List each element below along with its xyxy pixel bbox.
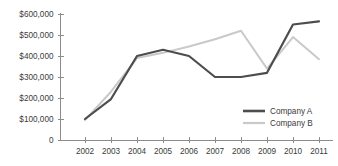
x-tick-label: 2009: [258, 147, 277, 156]
line-chart: 0$100,000$200,000$300,000$400,000$500,00…: [0, 0, 338, 166]
x-tick-label: 2010: [284, 147, 303, 156]
x-tick-label: 2006: [180, 147, 199, 156]
chart-canvas: 0$100,000$200,000$300,000$400,000$500,00…: [0, 0, 338, 166]
legend-label-company-a: Company A: [270, 107, 313, 116]
x-tick-label: 2005: [154, 147, 173, 156]
y-tick-label: $400,000: [19, 52, 54, 61]
series-lines: [85, 21, 319, 120]
chart-legend: Company ACompany B: [243, 107, 313, 128]
y-tick-label: $200,000: [19, 94, 54, 103]
x-tick-label: 2004: [128, 147, 147, 156]
x-tick-label: 2007: [206, 147, 225, 156]
y-tick-label: $500,000: [19, 31, 54, 40]
x-tick-label: 2008: [232, 147, 251, 156]
y-tick-label: $600,000: [19, 10, 54, 19]
x-tick-label: 2011: [310, 147, 328, 156]
y-tick-label: 0: [49, 136, 54, 145]
y-axis: 0$100,000$200,000$300,000$400,000$500,00…: [19, 10, 63, 145]
y-tick-label: $100,000: [19, 115, 54, 124]
x-axis: 2002200320042005200620072008200920102011: [61, 137, 334, 156]
series-line-company-a: [85, 21, 319, 119]
y-tick-label: $300,000: [19, 73, 54, 82]
x-tick-label: 2003: [102, 147, 121, 156]
x-tick-label: 2002: [76, 147, 95, 156]
legend-label-company-b: Company B: [270, 119, 313, 128]
